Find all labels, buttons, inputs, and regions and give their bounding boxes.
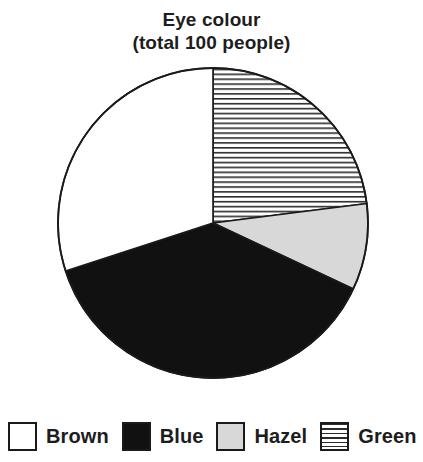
legend-label-hazel: Hazel — [254, 425, 307, 448]
white-square-icon — [8, 422, 37, 451]
pie-slice-group — [58, 68, 368, 378]
chart-legend: Brown Blue Hazel Green — [0, 414, 423, 458]
gray-square-icon — [216, 422, 245, 451]
legend-label-green: Green — [358, 425, 416, 448]
pie-svg — [0, 0, 423, 400]
legend-item-green[interactable]: Green — [320, 422, 416, 451]
pie-plot-area — [0, 0, 423, 400]
legend-label-blue: Blue — [160, 425, 204, 448]
legend-item-hazel[interactable]: Hazel — [216, 422, 307, 451]
pie-slice-green[interactable] — [213, 68, 367, 223]
striped-square-icon — [320, 422, 349, 451]
legend-item-brown[interactable]: Brown — [8, 422, 109, 451]
legend-item-blue[interactable]: Blue — [122, 422, 204, 451]
pie-chart-figure: Eye colour (total 100 people) Brow — [0, 0, 423, 462]
black-square-icon — [122, 422, 151, 451]
legend-label-brown: Brown — [46, 425, 109, 448]
